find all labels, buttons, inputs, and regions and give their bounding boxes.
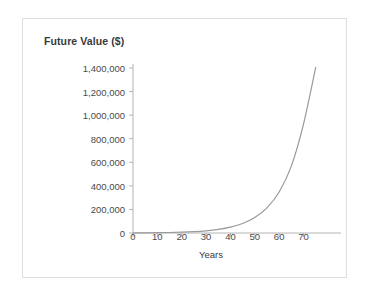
x-axis-tick-labels: 010203040506070 — [23, 19, 348, 279]
chart-frame: Future Value ($) 0200,000400,000600,0008… — [22, 18, 347, 278]
x-axis-title: Years — [199, 249, 223, 260]
x-axis-tick-label: 30 — [201, 231, 212, 242]
x-axis-tick-label: 10 — [152, 231, 163, 242]
x-axis-tick-label: 0 — [130, 231, 135, 242]
x-axis-tick-label: 60 — [274, 231, 285, 242]
x-axis-tick-label: 50 — [249, 231, 260, 242]
x-axis-tick-label: 70 — [298, 231, 309, 242]
x-axis-tick-label: 40 — [225, 231, 236, 242]
x-axis-tick-label: 20 — [176, 231, 187, 242]
